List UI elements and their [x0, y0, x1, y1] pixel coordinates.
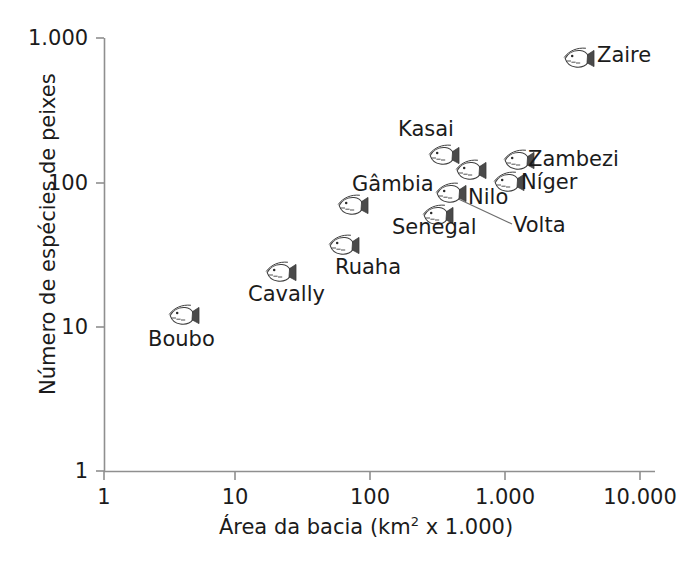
y-tick-label-1000: 1.000	[28, 26, 88, 50]
point-label-senegal: Senegal	[392, 215, 477, 239]
data-point-marker-cavally	[266, 262, 296, 281]
y-tick-label-1: 1	[28, 459, 88, 483]
x-axis-title-main: Área da bacia (km	[219, 515, 411, 539]
x-tick-label-10000: 10.000	[603, 485, 676, 509]
point-label-boubo: Boubo	[148, 327, 215, 351]
point-label-volta: Volta	[513, 213, 566, 237]
point-label-zaire: Zaire	[597, 43, 651, 67]
y-tick-label-100: 100	[28, 171, 88, 195]
y-axis-ticks	[96, 38, 104, 471]
point-label-kasai: Kasai	[398, 117, 454, 141]
data-point-marker-boubo	[169, 305, 199, 324]
point-label-gambia: Gâmbia	[352, 172, 434, 196]
data-point-marker-gambia	[338, 195, 368, 214]
x-axis-title-tail: x 1.000)	[419, 515, 513, 539]
point-label-cavally: Cavally	[248, 282, 325, 306]
point-label-nilo: Nilo	[468, 185, 508, 209]
data-point-marker-nilo	[456, 160, 486, 179]
x-axis-title: Área da bacia (km2 x 1.000)	[219, 515, 513, 539]
data-point-marker-zaire	[564, 48, 594, 67]
point-label-zambezi: Zambezi	[528, 147, 619, 171]
scatter-chart-figure: 1.000 100 10 1 1 10 100 1.000 10.000 Áre…	[0, 0, 687, 569]
x-tick-label-1: 1	[97, 485, 110, 509]
x-tick-label-100: 100	[350, 485, 390, 509]
x-axis-ticks	[104, 471, 640, 480]
y-tick-label-10: 10	[28, 315, 88, 339]
x-tick-label-10: 10	[222, 485, 249, 509]
x-axis-title-superscript: 2	[411, 514, 419, 529]
x-tick-label-1000: 1.000	[475, 485, 535, 509]
point-label-niger: Níger	[521, 170, 577, 194]
point-label-ruaha: Ruaha	[335, 255, 401, 279]
data-point-marker-volta	[436, 183, 466, 202]
data-point-marker-kasai	[429, 145, 459, 164]
chart-canvas	[0, 0, 687, 569]
data-point-marker-ruaha	[329, 235, 359, 254]
